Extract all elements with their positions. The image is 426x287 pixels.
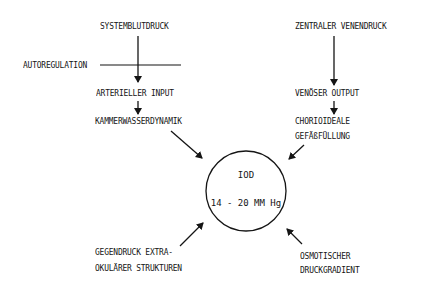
label-osmotischer: OSMOTISCHER bbox=[300, 251, 350, 261]
label-kammerwasserdynamik: KAMMERWASSERDYNAMIK bbox=[95, 116, 182, 126]
label-arterieller-input: ARTERIELLER INPUT bbox=[96, 88, 174, 98]
iod-diagram: SYSTEMBLUTDRUCK AUTOREGULATION ARTERIELL… bbox=[0, 0, 426, 287]
arrow-chorioideale-to-iod bbox=[289, 145, 304, 159]
label-zentraler-venendruck: ZENTRALER VENENDRUCK bbox=[295, 21, 387, 31]
label-gefaessfuellung: GEFÄßFÜLLUNG bbox=[295, 131, 350, 141]
label-systemblutdruck: SYSTEMBLUTDRUCK bbox=[100, 21, 169, 31]
label-venoeser-output: VENÖSER OUTPUT bbox=[295, 88, 359, 98]
label-okulaerer-strukturen: OKULÄRER STRUKTUREN bbox=[95, 263, 182, 273]
label-autoregulation: AUTOREGULATION bbox=[23, 60, 87, 70]
label-druckgradient: DRUCKGRADIENT bbox=[300, 265, 359, 275]
iod-circle bbox=[206, 151, 286, 231]
label-chorioideale: CHORIOIDEALE bbox=[295, 116, 350, 126]
iod-title: IOD bbox=[206, 170, 286, 180]
arrow-osmotischer-to-iod bbox=[287, 229, 302, 244]
label-gegendruck-extra: GEGENDRUCK EXTRA- bbox=[95, 247, 173, 257]
arrow-kammerwasser-to-iod bbox=[171, 131, 202, 158]
arrow-gegendruck-to-iod bbox=[180, 223, 203, 246]
iod-range: 14 - 20 MM Hg bbox=[201, 198, 291, 208]
diagram-lines bbox=[0, 0, 426, 287]
